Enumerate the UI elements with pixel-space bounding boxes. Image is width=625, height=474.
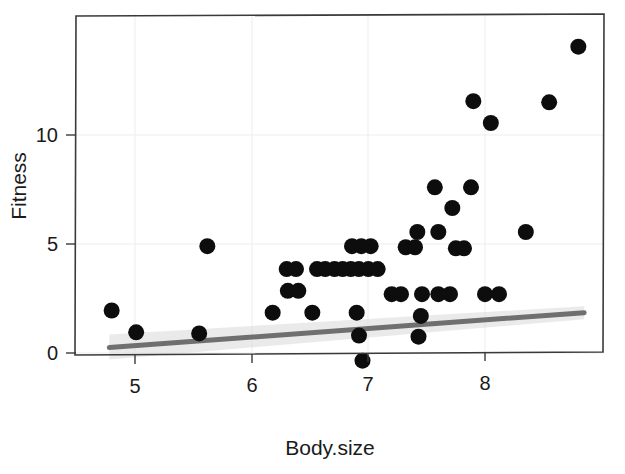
data-point bbox=[463, 179, 479, 195]
data-point bbox=[414, 286, 430, 302]
x-axis-title: Body.size bbox=[285, 436, 375, 459]
data-point bbox=[477, 286, 493, 302]
data-point bbox=[465, 93, 481, 109]
data-point bbox=[456, 240, 472, 256]
data-point bbox=[491, 286, 507, 302]
data-point bbox=[444, 200, 460, 216]
data-point bbox=[304, 305, 320, 321]
xtick-label-8: 8 bbox=[479, 372, 490, 394]
data-point bbox=[442, 286, 458, 302]
xtick-label-7: 7 bbox=[362, 373, 373, 395]
plot-panel-background bbox=[74, 14, 604, 353]
data-point bbox=[370, 261, 386, 277]
data-point bbox=[430, 224, 446, 240]
data-point bbox=[199, 238, 215, 254]
data-point bbox=[191, 325, 207, 341]
data-point bbox=[128, 324, 144, 340]
scatter-plot-figure: 5 6 7 8 0 5 10 Body.size Fitness bbox=[0, 0, 625, 474]
ytick-label-0: 0 bbox=[47, 342, 58, 364]
plot-canvas: 5 6 7 8 0 5 10 Body.size Fitness bbox=[0, 0, 625, 474]
data-point bbox=[290, 283, 306, 299]
ytick-label-5: 5 bbox=[47, 233, 58, 255]
data-point bbox=[393, 286, 409, 302]
data-point bbox=[541, 94, 557, 110]
data-point bbox=[483, 115, 499, 131]
data-point bbox=[570, 39, 586, 55]
data-point bbox=[413, 308, 429, 324]
data-point bbox=[265, 305, 281, 321]
data-point bbox=[427, 179, 443, 195]
ytick-label-10: 10 bbox=[36, 124, 58, 146]
data-point bbox=[351, 328, 367, 344]
y-axis-title: Fitness bbox=[7, 152, 30, 220]
data-point bbox=[363, 238, 379, 254]
xtick-label-5: 5 bbox=[129, 375, 140, 397]
data-point bbox=[409, 224, 425, 240]
data-point bbox=[104, 302, 120, 318]
data-point bbox=[411, 329, 427, 345]
data-point bbox=[349, 305, 365, 321]
xtick-label-6: 6 bbox=[246, 374, 257, 396]
data-point bbox=[288, 261, 304, 277]
data-point bbox=[518, 224, 534, 240]
data-point bbox=[407, 239, 423, 255]
